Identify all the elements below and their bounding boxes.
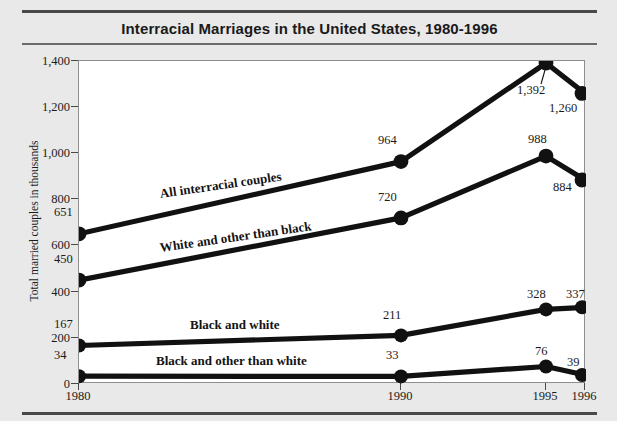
- series-label-black-and-other-than-white: Black and other than white: [156, 353, 307, 369]
- data-point-white-other-1980: [79, 273, 86, 288]
- x-tick-label-1996: 1996: [554, 389, 614, 404]
- series-line-black-and-white: [79, 307, 585, 345]
- value-label-all-1990: 964: [378, 133, 397, 148]
- x-tick-label-1990: 1990: [370, 389, 430, 404]
- y-axis-title: Total married couples in thousands: [26, 101, 42, 341]
- value-label-black-other-1980: 34: [54, 348, 67, 363]
- value-label-black-white-1980: 167: [54, 317, 73, 332]
- data-point-black-white-1980: [79, 339, 86, 353]
- data-point-black-white-1995: [539, 302, 553, 316]
- data-point-black-other-1995: [539, 360, 553, 374]
- value-label-white-other-1990: 720: [378, 190, 397, 205]
- series-line-all-interracial-couples: [79, 63, 585, 234]
- data-point-black-other-1990: [394, 369, 408, 383]
- value-label-black-other-1995: 76: [535, 344, 548, 359]
- y-tick-mark-0: [71, 383, 78, 384]
- chart-title: Interracial Marriages in the United Stat…: [22, 15, 597, 42]
- data-point-all-1990: [394, 154, 409, 169]
- title-rule-top: [22, 10, 597, 13]
- leader-line-all-1995: [541, 70, 545, 84]
- value-label-black-white-1995: 328: [527, 287, 546, 302]
- y-tick-mark-200: [71, 337, 78, 338]
- plot-area: [78, 60, 585, 383]
- value-label-all-1995: 1,392: [517, 83, 545, 98]
- y-tick-mark-400: [71, 291, 78, 292]
- value-label-all-1996: 1,260: [549, 101, 577, 116]
- title-rule-bottom: [22, 43, 597, 45]
- y-tick-mark-1200: [71, 106, 78, 107]
- value-label-white-other-1996: 884: [553, 180, 572, 195]
- value-label-black-white-1990: 211: [383, 308, 401, 323]
- y-tick-label-200: 200: [24, 331, 70, 346]
- x-tick-label-1980: 1980: [48, 389, 108, 404]
- data-point-all-1980: [79, 226, 86, 241]
- data-point-black-white-1990: [394, 328, 408, 342]
- chart-figure: Interracial Marriages in the United Stat…: [0, 0, 617, 421]
- y-tick-mark-800: [71, 198, 78, 199]
- y-tick-label-1200: 1,200: [24, 100, 70, 115]
- series-line-black-and-other-than-white: [79, 367, 585, 377]
- value-label-black-other-1990: 33: [386, 348, 399, 363]
- value-label-white-other-1980: 450: [54, 252, 73, 267]
- y-tick-label-1000: 1,000: [24, 146, 70, 161]
- value-label-white-other-1995: 988: [528, 132, 547, 147]
- bottom-rule: [22, 412, 597, 415]
- data-point-white-other-1995: [539, 149, 554, 164]
- y-tick-label-1400: 1,400: [24, 54, 70, 69]
- y-tick-mark-1000: [71, 152, 78, 153]
- y-tick-label-600: 600: [24, 238, 70, 253]
- y-tick-mark-1400: [71, 60, 78, 61]
- data-point-white-other-1990: [394, 211, 409, 226]
- data-point-black-other-1980: [79, 369, 86, 383]
- y-tick-mark-600: [71, 244, 78, 245]
- y-tick-label-400: 400: [24, 285, 70, 300]
- value-label-black-white-1996: 337: [566, 287, 585, 302]
- series-label-black-and-white: Black and white: [190, 317, 280, 333]
- value-label-black-other-1996: 39: [567, 355, 580, 370]
- series-canvas: [79, 61, 586, 384]
- value-label-all-1980: 651: [54, 205, 73, 220]
- data-point-black-white-1996: [575, 300, 586, 314]
- data-point-black-other-1996: [575, 368, 586, 382]
